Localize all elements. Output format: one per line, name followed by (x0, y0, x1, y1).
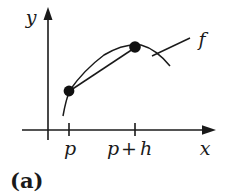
point-marker-p-plus-h (129, 41, 141, 53)
secant-line (68, 47, 136, 92)
y-axis-arrow-icon (44, 7, 53, 20)
figure-caption: (a) (10, 168, 43, 193)
x-axis-label: x (200, 137, 211, 159)
point-marker-p (64, 86, 75, 97)
tick-label-p-plus-h-h: h (140, 137, 152, 159)
x-axis-arrow-icon (202, 125, 216, 135)
tick-label-p-plus-h-operator: + (121, 137, 137, 159)
curve-label-f: f (196, 28, 208, 50)
tick-label-p: p (64, 137, 76, 159)
f-label-leader-line (152, 38, 190, 56)
derivative-secant-figure: y x f p p + h (a) (0, 0, 234, 193)
tick-label-p-plus-h-p: p (107, 137, 119, 159)
y-axis-label: y (25, 6, 37, 28)
